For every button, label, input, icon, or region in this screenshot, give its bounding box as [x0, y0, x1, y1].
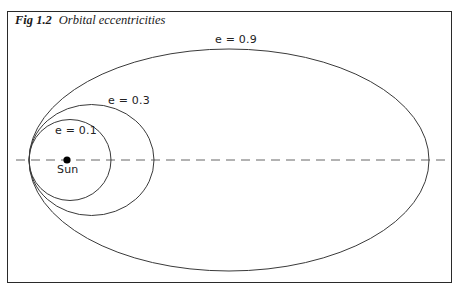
orbit-label-e03: e = 0.3: [108, 94, 150, 107]
orbit-label-e09: e = 0.9: [215, 33, 257, 46]
orbit-label-e01: e = 0.1: [55, 124, 97, 137]
sun-label: Sun: [57, 163, 79, 176]
